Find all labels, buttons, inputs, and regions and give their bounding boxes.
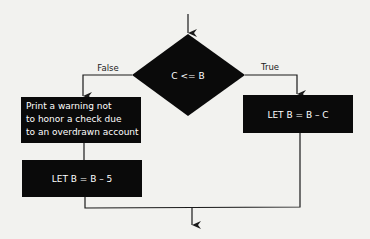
let-b-minus-c-label: LET B = B – C	[267, 110, 328, 120]
print-warning-line-3: to an overdrawn account	[26, 127, 139, 137]
decision-label: C <= B	[171, 71, 204, 81]
false-label: False	[97, 63, 118, 73]
flowchart: C <= B False True Print a warning not to…	[0, 0, 370, 239]
true-branch-connector	[245, 75, 297, 94]
print-warning-line-2: to honor a check due	[26, 114, 122, 124]
print-warning-line-1: Print a warning not	[26, 101, 112, 111]
true-label: True	[260, 62, 279, 72]
false-branch-connector	[83, 75, 132, 96]
let-b-minus-5-label: LET B = B – 5	[52, 174, 113, 184]
